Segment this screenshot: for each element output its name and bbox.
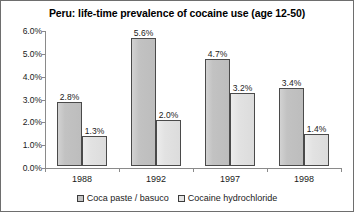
bar-1997-series-0 bbox=[205, 59, 230, 166]
bar-1997-series-1 bbox=[230, 93, 255, 166]
x-axis-tick-mark bbox=[45, 168, 46, 172]
y-axis-tick-mark bbox=[42, 100, 45, 101]
bar-value-label: 2.8% bbox=[60, 92, 79, 102]
y-axis-tick-label: 3.0% bbox=[4, 95, 42, 105]
y-axis-tick-mark bbox=[42, 145, 45, 146]
x-axis-tick-label: 1988 bbox=[72, 174, 92, 184]
legend-item-0[interactable]: Coca paste / basuco bbox=[77, 193, 169, 203]
bar-1992-series-1 bbox=[156, 120, 181, 166]
bar-1988-series-0 bbox=[57, 102, 82, 166]
y-axis: 0.0%1.0%2.0%3.0%4.0%5.0%6.0% bbox=[1, 1, 42, 212]
bar-1992-series-0 bbox=[131, 38, 156, 166]
legend-item-1[interactable]: Cocaine hydrochloride bbox=[178, 193, 278, 203]
bar-value-label: 1.3% bbox=[85, 126, 104, 136]
y-axis-tick-label: 1.0% bbox=[4, 140, 42, 150]
bar-value-label: 2.0% bbox=[159, 110, 178, 120]
legend-label: Cocaine hydrochloride bbox=[188, 193, 278, 203]
legend-label: Coca paste / basuco bbox=[87, 193, 169, 203]
chart-container: Peru: life-time prevalence of cocaine us… bbox=[0, 0, 354, 212]
x-axis-tick-mark bbox=[341, 168, 342, 172]
y-axis-tick-mark bbox=[42, 31, 45, 32]
y-axis-tick-mark bbox=[42, 122, 45, 123]
chart-title: Peru: life-time prevalence of cocaine us… bbox=[1, 7, 353, 19]
y-axis-tick-label: 2.0% bbox=[4, 117, 42, 127]
x-axis-tick-mark bbox=[267, 168, 268, 172]
bar-value-label: 3.4% bbox=[282, 78, 301, 88]
y-axis-tick-label: 0.0% bbox=[4, 163, 42, 173]
legend-swatch-icon bbox=[77, 195, 84, 202]
bar-value-label: 4.7% bbox=[208, 49, 227, 59]
legend-swatch-icon bbox=[178, 195, 185, 202]
bar-1988-series-1 bbox=[82, 136, 107, 166]
x-axis-tick-mark bbox=[119, 168, 120, 172]
y-axis-tick-label: 4.0% bbox=[4, 72, 42, 82]
bar-value-label: 5.6% bbox=[134, 28, 153, 38]
bar-value-label: 3.2% bbox=[233, 83, 252, 93]
x-axis-tick-mark bbox=[193, 168, 194, 172]
y-axis-tick-label: 6.0% bbox=[4, 26, 42, 36]
y-axis-tick-label: 5.0% bbox=[4, 49, 42, 59]
y-axis-tick-mark bbox=[42, 77, 45, 78]
chart-legend: Coca paste / basucoCocaine hydrochloride bbox=[1, 193, 353, 203]
bar-1998-series-1 bbox=[304, 134, 329, 166]
x-axis-tick-label: 1998 bbox=[294, 174, 314, 184]
x-axis-tick-label: 1992 bbox=[146, 174, 166, 184]
y-axis-tick-mark bbox=[42, 54, 45, 55]
bar-value-label: 1.4% bbox=[307, 124, 326, 134]
bar-1998-series-0 bbox=[279, 88, 304, 166]
x-axis-tick-label: 1997 bbox=[220, 174, 240, 184]
